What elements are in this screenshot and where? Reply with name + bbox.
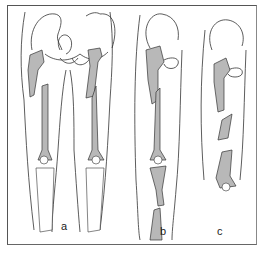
femur-distal-a-left [38, 84, 52, 160]
femur-middle-c [218, 114, 232, 140]
femur-proximal-a-left [28, 50, 44, 97]
panel-label-c: c [217, 226, 223, 237]
tibia-b [150, 166, 166, 206]
femur-proximal-a-right [86, 48, 102, 98]
panel-label-a: a [61, 221, 67, 232]
fracture-illustration [0, 0, 268, 253]
femur-distal-c [216, 150, 236, 188]
femur-proximal-b [146, 46, 164, 104]
panel-label-b: b [160, 226, 166, 237]
femur-proximal-c [214, 58, 230, 112]
